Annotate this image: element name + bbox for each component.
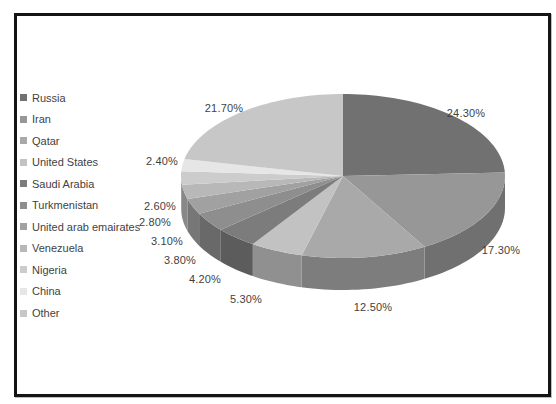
legend-item-other: Other xyxy=(20,306,60,320)
legend-marker-icon xyxy=(20,288,27,295)
legend-item-nigeria: Nigeria xyxy=(20,263,67,277)
slice-label-nigeria: 2.60% xyxy=(144,200,176,212)
legend-item-turkmenistan: Turkmenistan xyxy=(20,198,98,212)
legend-item-china: China xyxy=(20,284,61,298)
legend-label: Other xyxy=(32,307,60,319)
legend-label: United States xyxy=(32,156,98,168)
legend-item-iran: Iran xyxy=(20,112,51,126)
slice-label-venezuela: 2.80% xyxy=(139,216,171,228)
slice-label-russia: 24.30% xyxy=(447,107,486,119)
legend-label: Nigeria xyxy=(32,264,67,276)
slice-label-saudi-arabia: 4.20% xyxy=(189,273,221,285)
slice-label-turkmenistan: 3.80% xyxy=(164,254,196,266)
legend-marker-icon xyxy=(20,245,27,252)
slice-label-united-arab-emairates: 3.10% xyxy=(151,235,183,247)
slice-label-qatar: 12.50% xyxy=(354,301,393,313)
legend-marker-icon xyxy=(20,137,27,144)
legend-item-united-states: United States xyxy=(20,155,98,169)
legend-marker-icon xyxy=(20,266,27,273)
legend-marker-icon xyxy=(20,310,27,317)
legend-marker-icon xyxy=(20,159,27,166)
legend-marker-icon xyxy=(20,180,27,187)
legend-label: Saudi Arabia xyxy=(32,178,94,190)
slice-label-other: 21.70% xyxy=(205,102,244,114)
legend-label: Russia xyxy=(32,92,66,104)
legend-item-venezuela: Venezuela xyxy=(20,241,83,255)
legend-marker-icon xyxy=(20,94,27,101)
legend-label: United arab emairates xyxy=(32,221,140,233)
slice-label-china: 2.40% xyxy=(146,155,178,167)
legend-label: Qatar xyxy=(32,135,60,147)
legend-item-saudi-arabia: Saudi Arabia xyxy=(20,177,94,191)
legend-label: China xyxy=(32,285,61,297)
legend-item-united-arab-emairates: United arab emairates xyxy=(20,220,140,234)
legend-marker-icon xyxy=(20,223,27,230)
legend-item-russia: Russia xyxy=(20,91,66,105)
legend-label: Iran xyxy=(32,113,51,125)
legend-label: Venezuela xyxy=(32,242,83,254)
legend-marker-icon xyxy=(20,116,27,123)
legend-label: Turkmenistan xyxy=(32,199,98,211)
slice-label-united-states: 5.30% xyxy=(230,293,262,305)
legend-marker-icon xyxy=(20,202,27,209)
legend-item-qatar: Qatar xyxy=(20,134,60,148)
slice-label-iran: 17.30% xyxy=(482,244,521,256)
